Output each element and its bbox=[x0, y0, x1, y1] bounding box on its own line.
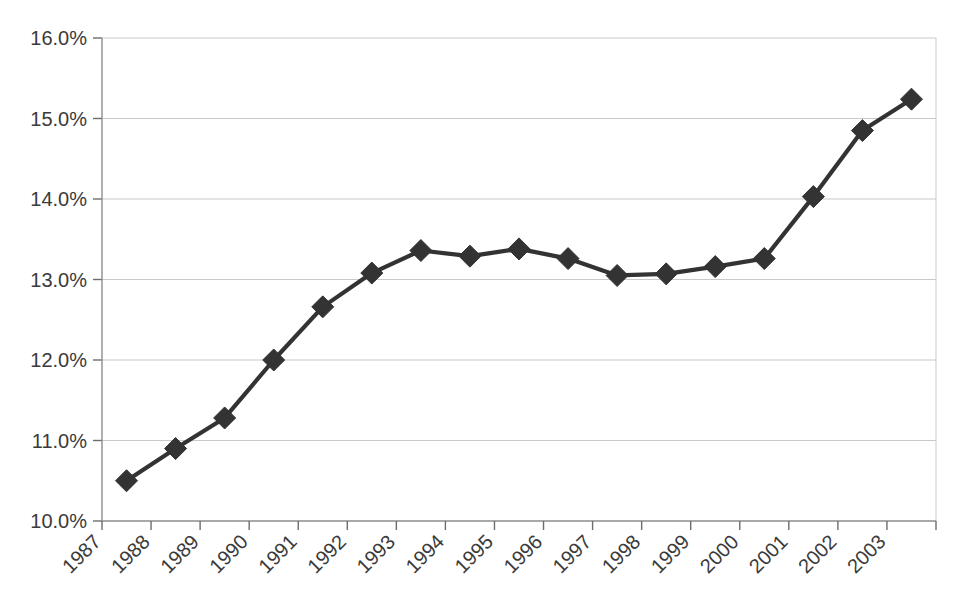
series-line bbox=[127, 99, 912, 481]
data-point-marker bbox=[900, 88, 922, 110]
x-tick-label: 1998 bbox=[597, 530, 644, 577]
y-tick-label: 10.0% bbox=[30, 510, 87, 532]
data-point-marker bbox=[459, 245, 481, 267]
x-tick-label: 1987 bbox=[58, 530, 105, 577]
x-tick-label: 1997 bbox=[548, 530, 595, 577]
x-tick-label: 2001 bbox=[745, 530, 792, 577]
x-tick-label: 1993 bbox=[352, 530, 399, 577]
x-tick-label: 1990 bbox=[205, 530, 252, 577]
data-point-marker bbox=[410, 240, 432, 262]
data-point-marker bbox=[116, 470, 138, 492]
data-point-marker bbox=[704, 256, 726, 278]
x-tick-label: 2002 bbox=[794, 530, 841, 577]
data-point-marker bbox=[508, 238, 530, 260]
axes-group bbox=[93, 38, 936, 530]
y-tick-label: 15.0% bbox=[30, 108, 87, 130]
data-series-group bbox=[116, 88, 923, 492]
y-tick-label: 13.0% bbox=[30, 269, 87, 291]
y-tick-label: 14.0% bbox=[30, 188, 87, 210]
y-tick-label: 11.0% bbox=[32, 430, 87, 452]
x-tick-label: 2003 bbox=[843, 530, 890, 577]
x-tick-label: 1991 bbox=[254, 530, 301, 577]
x-axis-labels: 1987198819891990199119921993199419951996… bbox=[58, 530, 890, 577]
data-point-marker bbox=[655, 263, 677, 285]
y-axis-labels: 10.0%11.0%12.0%13.0%14.0%15.0%16.0% bbox=[30, 27, 87, 532]
x-tick-label: 1995 bbox=[450, 530, 497, 577]
y-tick-label: 16.0% bbox=[30, 27, 87, 49]
x-tick-label: 1996 bbox=[499, 530, 546, 577]
data-point-marker bbox=[557, 248, 579, 270]
x-tick-label: 2000 bbox=[696, 530, 743, 577]
y-tick-label: 12.0% bbox=[30, 349, 87, 371]
line-chart: 10.0%11.0%12.0%13.0%14.0%15.0%16.0%19871… bbox=[0, 0, 963, 611]
data-point-marker bbox=[606, 264, 628, 286]
x-tick-label: 1992 bbox=[303, 530, 350, 577]
x-tick-label: 1994 bbox=[401, 530, 448, 577]
x-tick-label: 1999 bbox=[647, 530, 694, 577]
x-tick-label: 1989 bbox=[156, 530, 203, 577]
chart-canvas: 10.0%11.0%12.0%13.0%14.0%15.0%16.0%19871… bbox=[0, 0, 963, 611]
x-tick-label: 1988 bbox=[107, 530, 154, 577]
